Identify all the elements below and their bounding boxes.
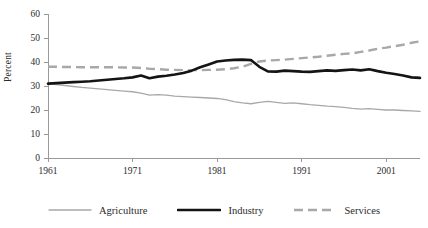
y-axis-tick-label: 30 <box>31 81 41 91</box>
legend-swatch-services-icon <box>293 205 337 215</box>
series-line-agriculture <box>48 84 420 112</box>
y-axis-tick-label: 0 <box>35 153 40 163</box>
legend-label-industry: Industry <box>228 205 263 216</box>
x-axis-tick-label: 2001 <box>377 166 396 176</box>
y-axis-tick-label: 50 <box>31 33 41 43</box>
legend-label-agriculture: Agriculture <box>99 205 147 216</box>
legend-item-industry: Industry <box>177 205 263 216</box>
series-line-services <box>48 41 420 70</box>
y-axis-tick-label: 40 <box>31 57 41 67</box>
x-axis-tick-labels: 19611971198119912001 <box>39 166 396 176</box>
x-axis-tick-label: 1961 <box>39 166 58 176</box>
y-axis-tick-label: 20 <box>31 105 41 115</box>
line-chart-figure: Percent 0102030405060 196119711981199120… <box>0 0 428 228</box>
legend-label-services: Services <box>344 205 380 216</box>
series-line-industry <box>48 60 420 84</box>
y-axis-tick-marks <box>44 14 48 158</box>
x-axis-tick-marks <box>48 158 386 162</box>
x-axis-tick-label: 1991 <box>292 166 311 176</box>
legend-item-services: Services <box>293 205 380 216</box>
y-axis-tick-labels: 0102030405060 <box>31 9 41 163</box>
legend-item-agriculture: Agriculture <box>48 205 147 216</box>
x-axis-tick-label: 1981 <box>208 166 227 176</box>
legend-swatch-industry-icon <box>177 205 221 215</box>
y-axis-tick-label: 10 <box>31 129 41 139</box>
chart-plot-area: 0102030405060 19611971198119912001 <box>0 0 428 198</box>
legend-swatch-agriculture-icon <box>48 205 92 215</box>
x-axis-tick-label: 1971 <box>123 166 142 176</box>
chart-legend: Agriculture Industry Services <box>0 198 428 222</box>
y-axis-tick-label: 60 <box>31 9 41 19</box>
